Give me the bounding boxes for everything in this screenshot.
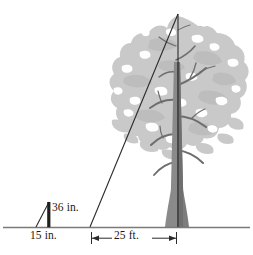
stake-distance-label: 15 in. <box>30 229 57 241</box>
tree-distance-label: 25 ft. <box>114 229 139 241</box>
tree-height-figure: 36 in. 15 in. 25 ft. <box>0 0 253 255</box>
stake-hypotenuse <box>36 202 49 227</box>
figure-canvas <box>0 0 253 255</box>
stake-height-label: 36 in. <box>52 201 79 213</box>
stake-triangle <box>36 202 50 227</box>
stake-post <box>47 202 50 227</box>
